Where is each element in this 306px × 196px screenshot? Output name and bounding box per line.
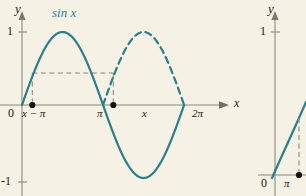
left-y-axis-label: y [15,2,21,15]
point-x [110,102,116,108]
right-curve [272,102,306,178]
right-y-axis-label: y [268,2,274,15]
right-y-tick-label-1: 1 [260,25,266,37]
right-point-pi [296,172,302,178]
right-panel-axes [258,11,306,196]
left-origin-label: 0 [8,107,14,119]
x-tick-label-2pi: 2π [192,108,203,119]
point-label-x: x [142,108,147,119]
point-label-x-minus-pi: x − π [22,108,45,119]
sine-dashed-curve [103,32,184,105]
left-x-axis-label: x [234,97,239,109]
left-y-tick-label-neg1: -1 [1,175,11,187]
x-tick-label-pi: π [97,108,103,119]
right-origin-label: 0 [261,177,267,189]
left-y-tick-label-1: 1 [7,25,13,37]
sine-comparison-figure: y 1 -1 0 sin x x − π π x 2π x y 1 0 π [0,0,306,196]
curve-label-sinx: sin x [52,6,76,19]
right-x-tick-label-pi: π [284,178,290,189]
